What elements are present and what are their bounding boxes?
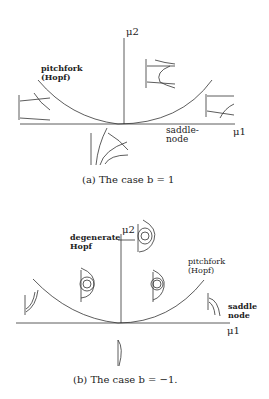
caption-b: (b) The case b = −1.	[73, 374, 177, 385]
caption-a: (a) The case b = 1	[82, 174, 174, 185]
phase-portrait-right	[206, 94, 234, 118]
phase-portrait-upper	[146, 59, 175, 88]
label-pitchfork-hopf-a: pitchfork (Hopf)	[41, 64, 83, 82]
axis-label-mu2-b: μ2	[122, 224, 135, 235]
panel-b-diagram	[16, 220, 230, 366]
axis-label-mu1-b: μ1	[227, 325, 240, 336]
phase-portrait-lower	[118, 340, 121, 366]
label-pitchfork-hopf-b: pitchfork (Hopf)	[188, 257, 225, 275]
phase-portrait-far-left	[25, 290, 38, 315]
phase-portrait-lower	[91, 128, 128, 165]
panel-a-diagram	[19, 38, 235, 165]
phase-portrait-left-spiral	[80, 268, 94, 302]
parabola-curve	[33, 279, 204, 323]
axis-label-mu2-a: μ2	[126, 26, 139, 37]
label-degenerate-hopf: degenerate Hopf	[70, 233, 120, 251]
phase-portrait-top-spiral	[138, 220, 155, 252]
phase-portrait-saddle-node	[208, 293, 220, 316]
parabola-curve	[38, 80, 212, 124]
bifurcation-diagrams	[0, 0, 269, 399]
label-saddle-node-a: saddle- node	[166, 126, 199, 144]
phase-portrait-right-spiral	[151, 270, 164, 302]
phase-portrait-left	[19, 93, 50, 120]
axis-label-mu1-a: μ1	[233, 126, 246, 137]
label-saddle-node-b: saddle node	[228, 302, 257, 320]
